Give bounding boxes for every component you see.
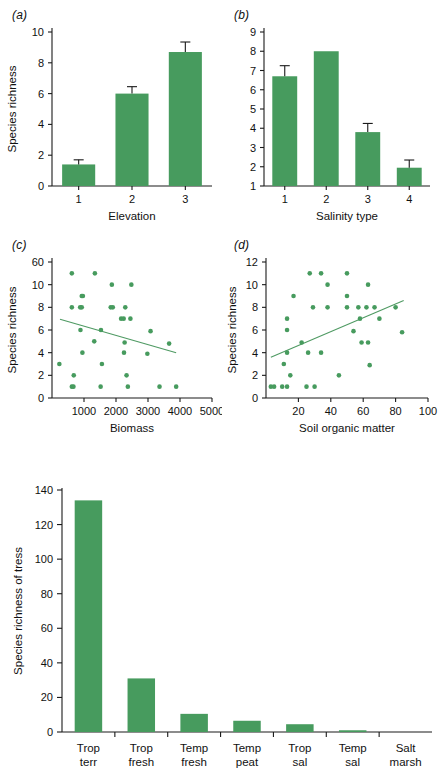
bar (233, 721, 260, 732)
x-tick-label: 60 (357, 405, 369, 417)
y-tick-label: 4 (250, 122, 256, 134)
data-point (288, 373, 293, 378)
data-point (93, 271, 98, 276)
data-point (359, 340, 364, 345)
x-category-label: Temp (339, 742, 367, 754)
y-tick-label: 6 (250, 84, 256, 96)
data-point (145, 352, 150, 357)
y-axis-title: Species richness (226, 286, 238, 373)
x-tick-label: 2000 (104, 405, 128, 417)
y-tick-label: 1 (250, 180, 256, 192)
data-point (99, 328, 104, 333)
x-tick-label: 80 (389, 405, 401, 417)
data-point (126, 384, 131, 389)
x-category-label: Trop (77, 742, 100, 754)
bar (339, 730, 366, 732)
y-tick-label: 60 (32, 256, 44, 268)
x-tick-label: 4000 (168, 405, 192, 417)
bar (75, 500, 102, 732)
figure-panel-grid: (a) 0246810123ElevationSpecies richness … (0, 0, 445, 772)
data-point (358, 316, 363, 321)
x-tick-label: 1 (76, 193, 82, 205)
data-point (345, 271, 350, 276)
y-tick-label: 4 (38, 118, 44, 130)
x-axis-title: Salinity type (316, 210, 378, 222)
data-point (319, 350, 324, 355)
data-point (122, 340, 127, 345)
panel-e: 020406080100120140TropterrTropfreshTempf… (0, 460, 445, 772)
data-point (311, 305, 316, 310)
bar (180, 714, 207, 732)
y-tick-label: 10 (32, 26, 44, 38)
y-tick-label: 9 (250, 26, 256, 38)
x-tick-label: 40 (325, 405, 337, 417)
y-tick-label: 3 (250, 142, 256, 154)
panel-b-label: (b) (234, 8, 249, 22)
data-point (129, 282, 134, 287)
data-point (111, 305, 116, 310)
y-tick-label: 2 (250, 161, 256, 173)
x-tick-label: 1 (282, 193, 288, 205)
data-point (78, 328, 83, 333)
data-point (306, 350, 311, 355)
y-tick-label: 10 (246, 279, 258, 291)
y-tick-label: 140 (35, 484, 53, 496)
bar (397, 168, 422, 186)
data-point (280, 384, 285, 389)
data-point (393, 305, 398, 310)
data-point (337, 373, 342, 378)
x-tick-label: 100 (419, 405, 437, 417)
x-category-label: fresh (181, 756, 207, 768)
bar (62, 164, 95, 186)
x-axis-title: Soil organic matter (299, 422, 395, 434)
data-point (325, 282, 330, 287)
x-tick-label: 5000 (200, 405, 222, 417)
panel-d-chart: 02468101220406080100Soil organic matterS… (222, 230, 445, 460)
x-tick-label: 20 (292, 405, 304, 417)
y-tick-label: 6 (252, 324, 258, 336)
data-point (299, 340, 304, 345)
data-point (377, 316, 382, 321)
panel-a: (a) 0246810123ElevationSpecies richness (0, 0, 222, 230)
data-point (366, 340, 371, 345)
panel-e-chart: 020406080100120140TropterrTropfreshTempf… (0, 460, 445, 772)
bar (286, 724, 313, 732)
y-axis-title: Species richness (6, 65, 18, 152)
data-point (71, 373, 76, 378)
data-point (304, 384, 309, 389)
panel-c-label: (c) (12, 238, 27, 252)
x-category-label: Temp (180, 742, 208, 754)
y-tick-label: 5 (250, 103, 256, 115)
x-category-label: Trop (130, 742, 153, 754)
data-point (272, 384, 277, 389)
panel-d-label: (d) (234, 238, 249, 252)
trend-line (60, 319, 176, 352)
y-tick-label: 4 (252, 347, 258, 359)
data-point (345, 294, 350, 299)
y-axis-title: Species richness of tress (12, 547, 24, 675)
data-point (128, 316, 133, 321)
x-axis-title: Biomass (110, 422, 154, 434)
data-point (307, 271, 312, 276)
y-tick-label: 0 (38, 392, 44, 404)
x-tick-label: 3 (182, 193, 188, 205)
data-point (121, 316, 126, 321)
panel-d: (d) 02468101220406080100Soil organic mat… (222, 230, 445, 460)
data-point (351, 329, 356, 334)
data-point (79, 305, 84, 310)
data-point (325, 305, 330, 310)
data-point (148, 329, 153, 334)
bar (314, 51, 339, 186)
y-tick-label: 8 (38, 57, 44, 69)
x-tick-label: 1000 (72, 405, 96, 417)
y-tick-label: 7 (250, 65, 256, 77)
bar (169, 52, 202, 186)
data-point (157, 384, 162, 389)
y-tick-label: 60 (41, 622, 53, 634)
y-tick-label: 8 (252, 301, 258, 313)
data-point (285, 316, 290, 321)
data-point (110, 282, 115, 287)
data-point (70, 271, 75, 276)
data-point (70, 305, 75, 310)
x-category-label: sal (345, 756, 360, 768)
